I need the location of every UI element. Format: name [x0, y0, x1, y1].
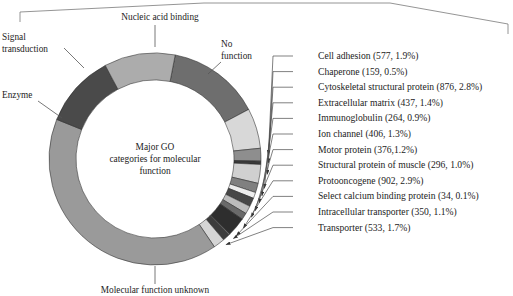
side-label-ion-channel-text: Ion channel (406, 1.3%) [318, 128, 411, 140]
center-line-2: categories for molecular [109, 154, 201, 164]
leader-signal-transduction [64, 48, 84, 68]
go-molecular-function-donut-figure: Nucleic acid binding (13.9%)No function … [0, 0, 513, 296]
side-label-cytoskeletal-structural-protein-text: Cytoskeletal structural protein (876, 2.… [318, 81, 482, 93]
center-line-1: Major GO [136, 142, 175, 152]
outer-label-molecular-function-unknown: Molecular function unknown [101, 266, 210, 295]
donut-slice-enzyme: Enzyme (10.9%) [57, 65, 118, 129]
leader-transporter [226, 228, 293, 245]
outer-label-signal-transduction: Signal transduction [2, 32, 84, 68]
side-label-chaperone-text: Chaperone (159, 0.5%) [318, 66, 408, 78]
side-label-protooncogene-text: Protooncogene (902, 2.9%) [318, 175, 424, 187]
side-label-extracellular-matrix-text: Extracellular matrix (437, 1.4%) [318, 97, 443, 109]
leader-immunoglobulin [262, 118, 293, 196]
side-label-transporter-text: Transporter (533, 1.7%) [318, 222, 410, 234]
donut-slice-nucleic-acid-binding: Nucleic acid binding (13.9%) [170, 55, 249, 122]
side-label-intracellular-transporter-text: Intracellular transporter (350, 1.1%) [318, 206, 457, 218]
outer-label-no-function-line-1: No [221, 39, 233, 49]
outer-label-no-function-line-2: function [221, 51, 252, 61]
top-brace [20, 3, 508, 34]
donut-slice-molecular-function-unknown: Molecular function unknown (39.7%) [49, 119, 214, 265]
side-label-motor-protein-text: Motor protein (376,1.2%) [318, 144, 417, 156]
leader-chaperone [268, 72, 293, 163]
center-line-3: function [139, 166, 171, 176]
side-label-group: Cell adhesion (577, 1.9%)Chaperone (159,… [226, 50, 482, 245]
outer-label-nucleic-acid-binding: Nucleic acid binding [121, 12, 199, 47]
side-label-cell-adhesion-text: Cell adhesion (577, 1.9%) [318, 50, 418, 62]
donut-slice-signal-transduction: Signal transduction (10.6%) [105, 53, 175, 89]
side-label-select-calcium-binding-protein-text: Select calcium binding protein (34, 0.1%… [318, 190, 479, 202]
outer-label-no-function: No function [208, 39, 252, 74]
outer-label-enzyme: Enzyme [2, 90, 62, 118]
side-label-immunoglobulin-text: Immunoglobulin (264, 0.9%) [318, 112, 430, 124]
side-label-structural-protein-of-muscle-text: Structural protein of muscle (296, 1.0%) [318, 159, 473, 171]
leader-enzyme [38, 101, 62, 118]
outer-label-enzyme-text: Enzyme [2, 90, 32, 100]
center-caption: Major GO categories for molecular functi… [109, 142, 201, 176]
outer-label-signal-transduction-line-1: Signal [2, 32, 26, 42]
outer-label-signal-transduction-line-2: transduction [2, 44, 48, 54]
outer-label-nucleic-acid-binding-text: Nucleic acid binding [121, 12, 199, 22]
outer-label-molecular-function-unknown-text: Molecular function unknown [101, 285, 210, 295]
side-label-protooncogene: Protooncogene (902, 2.9%) [243, 175, 423, 228]
leader-ion-channel [259, 134, 293, 203]
